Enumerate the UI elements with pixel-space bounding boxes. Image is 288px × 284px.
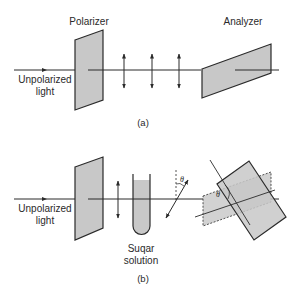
- caption-b: (b): [133, 273, 153, 284]
- part-b: θ θ: [14, 157, 286, 240]
- sugar-solution-label-line1: Suqar: [118, 243, 164, 254]
- unpolarized-light-label-b-line2: light: [16, 215, 74, 226]
- unpolarized-light-label-a-line1: Unpolarized: [16, 74, 74, 85]
- caption-a: (a): [133, 117, 153, 128]
- test-tube: [133, 174, 150, 235]
- rotation-angle-label: θ: [180, 175, 184, 184]
- polarizer-label: Polarizer: [68, 16, 110, 27]
- sugar-solution-label-line2: solution: [118, 255, 164, 266]
- sugar-solution-fill: [133, 180, 150, 235]
- unpolarized-light-label-a-line2: light: [16, 86, 74, 97]
- polarimeter-diagram: θ θ: [0, 0, 288, 284]
- analyzer-angle-label: θ: [216, 190, 220, 199]
- unpolarized-light-label-b-line1: Unpolarized: [16, 203, 74, 214]
- beam-direction-arrow-icon: [42, 197, 47, 201]
- analyzer-label: Analyzer: [220, 16, 266, 27]
- part-a: [14, 30, 279, 110]
- beam-direction-arrow-icon: [42, 68, 47, 72]
- analyzer-plate-a: [202, 44, 271, 98]
- analyzer-rotated-plate-b: [217, 161, 286, 240]
